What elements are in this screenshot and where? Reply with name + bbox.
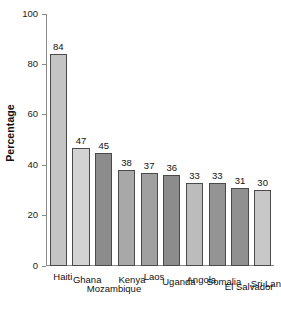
y-axis-tick: 80 <box>42 64 46 65</box>
y-axis-tick-label: 40 <box>27 159 38 170</box>
y-axis-title: Percentage <box>0 0 20 266</box>
x-axis-labels: HaitiGhanaMozambiqueKenyaLaosUgandaAngol… <box>46 266 281 326</box>
bar <box>186 183 203 266</box>
bar-value-label: 84 <box>53 41 64 52</box>
bar-group: 36 <box>163 14 180 266</box>
plot-area: 020406080100 84474538373633333130 <box>46 14 274 266</box>
y-axis-tick-label: 80 <box>27 58 38 69</box>
bar-chart-figure: Percentage 020406080100 8447453837363333… <box>0 0 281 326</box>
bar-group: 33 <box>209 14 226 266</box>
y-axis-tick: 40 <box>42 165 46 166</box>
bar-value-label: 31 <box>235 175 246 186</box>
y-axis-title-label: Percentage <box>4 104 16 162</box>
bar-value-label: 38 <box>121 157 132 168</box>
bar-value-label: 33 <box>212 170 223 181</box>
y-axis-tick-label: 60 <box>27 108 38 119</box>
bar-series: 84474538373633333130 <box>47 14 274 266</box>
bar <box>141 173 158 266</box>
y-axis-tick-label: 100 <box>22 8 38 19</box>
bar-group: 45 <box>95 14 112 266</box>
bar <box>72 148 89 266</box>
bar <box>95 153 112 266</box>
bar-group: 84 <box>50 14 67 266</box>
y-axis-tick-label: 20 <box>27 209 38 220</box>
bar-value-label: 33 <box>189 170 200 181</box>
bar <box>50 54 67 266</box>
y-axis-tick-label: 0 <box>33 260 38 271</box>
bar-group: 37 <box>141 14 158 266</box>
y-axis-tick: 20 <box>42 215 46 216</box>
bar-value-label: 30 <box>257 177 268 188</box>
bar-group: 47 <box>72 14 89 266</box>
bar-value-label: 47 <box>76 135 87 146</box>
bar <box>209 183 226 266</box>
bar <box>163 175 180 266</box>
bar <box>231 188 248 266</box>
bar-group: 33 <box>186 14 203 266</box>
bar-group: 38 <box>118 14 135 266</box>
bar-value-label: 45 <box>98 140 109 151</box>
bar-value-label: 36 <box>167 162 178 173</box>
y-axis-tick: 100 <box>42 14 46 15</box>
bar-group: 31 <box>231 14 248 266</box>
y-axis-tick: 60 <box>42 114 46 115</box>
bar-group: 30 <box>254 14 271 266</box>
bar-value-label: 37 <box>144 160 155 171</box>
